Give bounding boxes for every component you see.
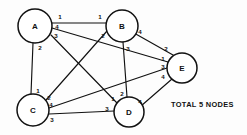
port-label-b-e-from: 4: [138, 28, 142, 35]
port-label-c-e-from: 4: [49, 101, 53, 108]
total-nodes-caption: TOTAL 5 NODES: [171, 100, 234, 109]
port-label-d-e-to: 4: [161, 73, 165, 80]
node-label-e: E: [179, 64, 185, 73]
port-label-a-b-to: 1: [98, 13, 102, 20]
graph-svg: ABCDE 11413121224232433344: [0, 0, 247, 135]
port-label-a-e-from: 4: [55, 23, 59, 30]
port-label-b-e-to: 2: [164, 45, 168, 52]
node-label-b: B: [119, 22, 125, 31]
node-label-d: D: [126, 108, 132, 117]
port-label-a-d-to: 1: [111, 95, 115, 102]
edge-a-c[interactable]: [31, 43, 33, 94]
port-label-a-c-to: 1: [36, 87, 40, 94]
port-label-a-e-to: 1: [161, 55, 165, 62]
port-label-c-d-from: 3: [50, 116, 54, 123]
edge-c-e[interactable]: [49, 68, 167, 108]
graph-diagram-canvas: ABCDE 11413121224232433344 TOTAL 5 NODES: [0, 0, 247, 135]
edge-a-d[interactable]: [51, 35, 117, 103]
node-label-c: C: [30, 106, 36, 115]
port-label-b-d-to: 2: [120, 90, 124, 97]
port-label-a-c-from: 2: [38, 44, 42, 51]
port-label-a-d-from: 3: [54, 32, 58, 39]
port-label-d-e-from: 4: [138, 98, 142, 105]
port-label-b-d-from: 3: [126, 45, 130, 52]
edge-c-d[interactable]: [49, 111, 114, 114]
port-label-b-c-to: 2: [47, 94, 51, 101]
port-label-c-e-to: 3: [161, 63, 165, 70]
edge-d-e[interactable]: [141, 79, 172, 106]
port-label-a-b-from: 1: [58, 13, 62, 20]
node-label-a: A: [32, 22, 38, 31]
edge-b-c[interactable]: [46, 31, 107, 100]
port-label-c-d-to: 3: [105, 105, 109, 112]
port-label-b-c-from: 2: [101, 32, 105, 39]
